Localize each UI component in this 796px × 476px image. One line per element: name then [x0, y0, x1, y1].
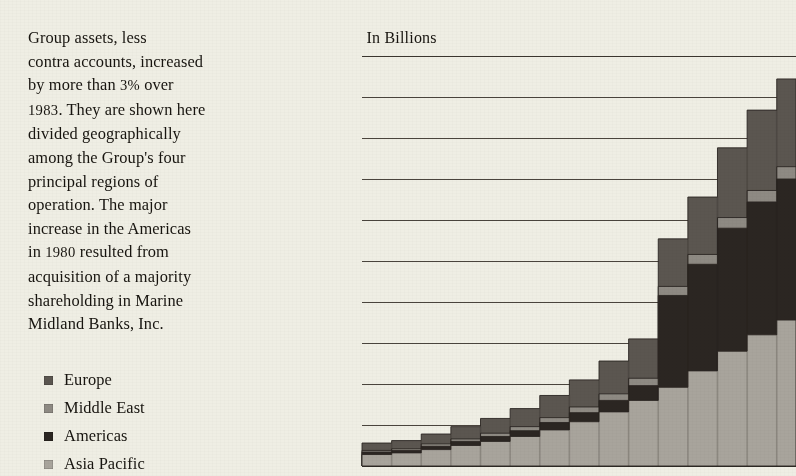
legend-item-europe[interactable]: Europe [28, 366, 268, 394]
copy-line-1: Group assets, less [28, 28, 147, 47]
chart-panel: HK$500 In Billions 050100150200250300350… [282, 0, 796, 476]
copy-line-2: contra accounts, increased [28, 52, 203, 71]
legend-label-americas: Americas [64, 427, 128, 445]
copy-line-8: operation. The major [28, 195, 168, 214]
copy-line-3c: over [140, 75, 174, 94]
legend-label-europe: Europe [64, 371, 112, 389]
legend-label-middle-east: Middle East [64, 399, 145, 417]
copy-year-1983: 1983 [28, 102, 58, 118]
chart-plot-area: 050100150200250300350400450 [282, 0, 796, 476]
axis-gutter-mask [282, 0, 362, 476]
left-column: Group assets, less contra accounts, incr… [0, 0, 282, 476]
legend-item-americas[interactable]: Americas [28, 422, 268, 450]
legend-swatch-middle-east [44, 404, 53, 413]
legend-swatch-americas [44, 432, 53, 441]
body-copy-paragraph: Group assets, less contra accounts, incr… [28, 26, 266, 336]
copy-line-9: increase in the Americas [28, 219, 191, 238]
legend-swatch-asia-pacific [44, 460, 53, 469]
copy-line-12: shareholding in Marine [28, 291, 183, 310]
copy-line-6: among the Group's four [28, 148, 186, 167]
copy-line-10a: in [28, 242, 45, 261]
copy-line-4b: . They are shown here [58, 100, 205, 119]
copy-percent-3: 3% [120, 77, 140, 93]
legend-item-middle-east[interactable]: Middle East [28, 394, 268, 422]
copy-line-7: principal regions of [28, 172, 158, 191]
legend-label-asia-pacific: Asia Pacific [64, 455, 145, 473]
copy-year-1980: 1980 [45, 244, 75, 260]
copy-line-5: divided geographically [28, 124, 181, 143]
copy-line-13: Midland Banks, Inc. [28, 314, 164, 333]
legend-item-asia-pacific[interactable]: Asia Pacific [28, 450, 268, 476]
copy-line-11: acquisition of a majority [28, 267, 191, 286]
chart-series-layers [282, 0, 796, 476]
copy-line-3a: by more than [28, 75, 120, 94]
chart-legend: Europe Middle East Americas Asia Pacific [28, 366, 268, 476]
legend-swatch-europe [44, 376, 53, 385]
copy-line-10c: resulted from [76, 242, 169, 261]
